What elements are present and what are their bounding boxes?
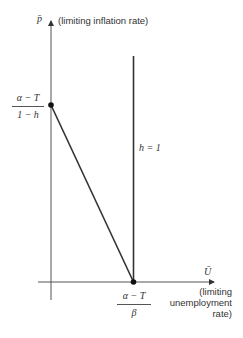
- sloped-line: [51, 105, 134, 282]
- vertical-line-label: h = 1: [139, 142, 161, 153]
- x-axis-label: (limiting unemployment rate): [160, 286, 232, 319]
- x-intercept-label: α − T β: [117, 290, 151, 319]
- x-intercept-numerator: α − T: [117, 290, 151, 302]
- y-intercept-point: [48, 102, 54, 108]
- x-axis-symbol: Ū: [204, 266, 211, 277]
- y-axis-label: (limiting inflation rate): [58, 15, 148, 26]
- x-axis-label-line: unemployment: [160, 297, 232, 308]
- x-intercept-denominator: β: [117, 307, 151, 319]
- fraction-bar: [117, 304, 151, 305]
- x-intercept-point: [131, 279, 137, 285]
- x-axis-label-line: (limiting: [160, 286, 232, 297]
- fraction-bar: [12, 106, 44, 107]
- y-intercept-denominator: 1 − h: [12, 109, 44, 121]
- y-intercept-numerator: α − T: [12, 92, 44, 104]
- y-intercept-label: α − T 1 − h: [12, 92, 44, 121]
- x-axis-label-line: rate): [160, 308, 232, 319]
- y-axis-symbol: p̄: [37, 13, 42, 24]
